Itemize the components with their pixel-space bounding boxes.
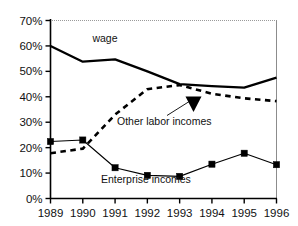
annotation-leader-line: [167, 101, 190, 116]
series-label-enterprise-incomes: Enterprise incomes: [101, 173, 191, 185]
y-tick-label: 10%: [19, 167, 42, 179]
data-point-marker: [209, 161, 215, 167]
x-tick-label: 1992: [135, 207, 161, 219]
data-point-marker: [47, 138, 53, 144]
x-tick-label: 1991: [102, 207, 128, 219]
y-tick-label: 70%: [19, 15, 42, 27]
y-tick-label: 0%: [26, 193, 43, 205]
data-point-marker: [273, 162, 279, 168]
data-point-marker: [112, 165, 118, 171]
x-tick-label: 1994: [199, 207, 225, 219]
y-tick-label: 30%: [19, 116, 42, 128]
y-tick-label: 50%: [19, 65, 42, 77]
series-line-wage: [51, 46, 277, 88]
y-tick-label: 60%: [19, 40, 42, 52]
series-label-wage: wage: [91, 32, 117, 44]
chart-container: 0%10%20%30%40%50%60%70% 1989199019911992…: [0, 0, 298, 226]
annotation-arrowhead-icon: [186, 97, 202, 113]
x-tick-label: 1993: [167, 207, 193, 219]
x-tick-label: 1990: [70, 207, 96, 219]
series-line-enterprise-incomes: [51, 140, 277, 176]
y-tick-label: 40%: [19, 91, 42, 103]
data-point-marker: [241, 150, 247, 156]
line-chart: 0%10%20%30%40%50%60%70% 1989199019911992…: [0, 0, 298, 226]
data-point-marker: [80, 137, 86, 143]
x-tick-label: 1996: [264, 207, 290, 219]
series-label-other-labor-incomes: Other labor incomes: [117, 115, 212, 127]
x-tick-label: 1989: [38, 207, 64, 219]
x-tick-label: 1995: [231, 207, 257, 219]
x-axis-tick-labels: 19891990199119921993199419951996: [38, 207, 290, 219]
y-tick-label: 20%: [19, 142, 42, 154]
y-axis-tick-labels: 0%10%20%30%40%50%60%70%: [19, 15, 42, 205]
